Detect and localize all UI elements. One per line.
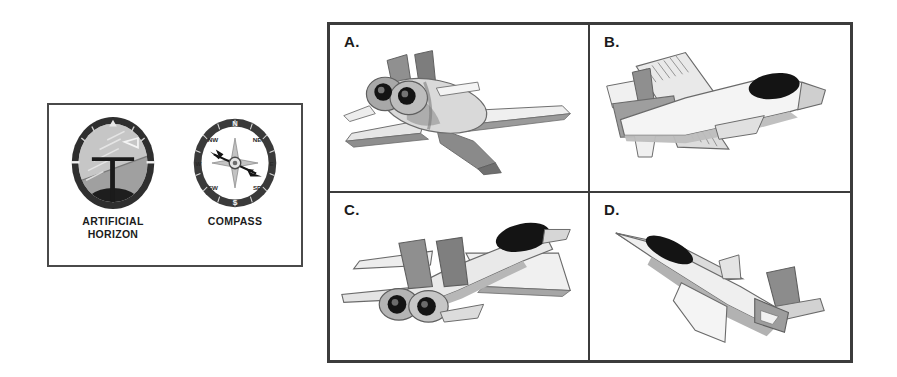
svg-text:N: N <box>232 119 238 128</box>
artificial-horizon-caption-line1: ARTIFICIAL <box>61 215 165 228</box>
artificial-horizon-icon <box>65 115 161 211</box>
svg-text:NE: NE <box>253 136 262 143</box>
aircraft-option-c[interactable]: C. <box>330 193 590 361</box>
compass-icon: N S W E NW NE SW SE <box>187 115 283 211</box>
instrument-compass: N S W E NW NE SW SE <box>183 115 287 228</box>
aircraft-illustration-c <box>330 193 588 361</box>
aircraft-option-b[interactable]: B. <box>590 25 850 193</box>
aircraft-option-a[interactable]: A. <box>330 25 590 193</box>
svg-text:S: S <box>232 198 237 207</box>
instrument-artificial-horizon: ARTIFICIAL HORIZON <box>61 115 165 241</box>
instrument-panel: ARTIFICIAL HORIZON <box>47 103 303 267</box>
aircraft-illustration-b <box>590 25 850 191</box>
compass-caption: COMPASS <box>183 215 287 228</box>
aircraft-grid: A. <box>327 22 853 363</box>
compass-caption-line1: COMPASS <box>183 215 287 228</box>
artificial-horizon-caption-line2: HORIZON <box>61 228 165 241</box>
svg-text:SE: SE <box>253 184 261 191</box>
svg-text:W: W <box>196 160 202 167</box>
artificial-horizon-caption: ARTIFICIAL HORIZON <box>61 215 165 241</box>
aircraft-illustration-d <box>590 193 850 361</box>
svg-text:E: E <box>269 160 273 167</box>
svg-text:NW: NW <box>208 136 219 143</box>
aircraft-option-d[interactable]: D. <box>590 193 850 361</box>
aircraft-illustration-a <box>330 25 588 191</box>
compass-dial: N S W E NW NE SW SE <box>187 115 283 211</box>
svg-text:SW: SW <box>208 184 218 191</box>
artificial-horizon-dial <box>65 115 161 211</box>
